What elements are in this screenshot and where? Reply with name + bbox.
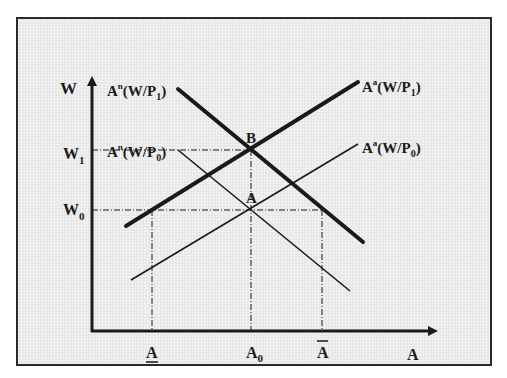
point-a-label: A (246, 190, 257, 206)
label-aa-p1: Aa(W/P1) (362, 77, 421, 98)
x-tick-a-under: A (146, 344, 158, 361)
point-b-label: B (246, 130, 256, 146)
diagram-canvas: W A W1 W0 A A0 A B A An(W/P1) An(W/P0) A… (0, 0, 507, 378)
x-tick-a-bar: A (317, 344, 329, 361)
curve-an-p0 (178, 150, 350, 291)
x-tick-a0: A0 (246, 344, 264, 364)
label-an-p1: An(W/P1) (107, 81, 166, 102)
x-axis-label: A (407, 346, 419, 363)
y-tick-w1: W1 (63, 145, 85, 166)
curve-an-p1 (178, 89, 363, 242)
y-tick-w0: W0 (63, 201, 85, 222)
label-aa-p0: Aa(W/P0) (362, 138, 421, 159)
y-axis-label: W (60, 79, 77, 98)
label-an-p0: An(W/P0) (107, 142, 166, 163)
